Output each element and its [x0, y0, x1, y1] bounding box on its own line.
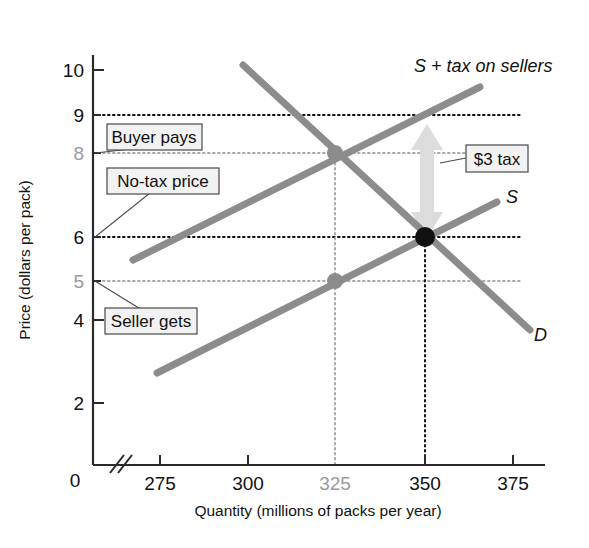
supply-curve	[157, 202, 497, 373]
no-tax-equilibrium-point	[415, 227, 435, 247]
no-tax-price-leader	[95, 193, 150, 237]
seller-gets-point	[327, 273, 343, 289]
callout-tax[interactable]: $3 tax	[466, 145, 528, 172]
tax-leader	[440, 158, 466, 163]
demand-label: D	[534, 325, 547, 345]
y-tick-label-8: 8	[73, 143, 84, 164]
x-axis-title: Quantity (millions of packs per year)	[194, 502, 441, 519]
y-tick-label-10: 10	[63, 60, 84, 81]
y-tick-label-2: 2	[73, 393, 84, 414]
seller-gets-leader	[95, 281, 142, 310]
y-axis-title: Price (dollars per pack)	[16, 180, 33, 339]
supply-plus-tax-label: S + tax on sellers	[414, 56, 553, 76]
x-tick-label-325: 325	[319, 473, 351, 494]
tax-label: $3 tax	[474, 150, 521, 169]
x-tick-label-350: 350	[409, 473, 441, 494]
y-tick-label-5: 5	[73, 271, 84, 292]
axes	[93, 55, 545, 473]
chart-figure: 10 9 8 6 5 4 2 0 275 300 325 350 375 Qua…	[0, 0, 589, 548]
callout-buyer-pays[interactable]: Buyer pays	[107, 124, 202, 150]
x-tick-label-375: 375	[497, 473, 529, 494]
y-tick-label-6: 6	[73, 227, 84, 248]
seller-gets-label: Seller gets	[111, 312, 191, 331]
x-tick-label-275: 275	[144, 473, 176, 494]
x-tick-label-300: 300	[232, 473, 264, 494]
y-tick-label-4: 4	[73, 310, 84, 331]
x-axis-ticks	[160, 455, 513, 465]
supply-demand-chart: 10 9 8 6 5 4 2 0 275 300 325 350 375 Qua…	[0, 0, 589, 548]
y-tick-label-9: 9	[73, 105, 84, 126]
buyer-pays-point	[327, 145, 343, 161]
callout-seller-gets[interactable]: Seller gets	[105, 308, 197, 334]
x-tick-label-0: 0	[70, 470, 81, 491]
x-axis-tick-labels: 0 275 300 325 350 375	[70, 470, 529, 494]
supply-label: S	[506, 187, 518, 207]
callout-no-tax-price[interactable]: No-tax price	[107, 168, 219, 194]
buyer-pays-label: Buyer pays	[111, 128, 196, 147]
demand-curve	[243, 65, 530, 330]
y-axis-tick-labels: 10 9 8 6 5 4 2	[63, 60, 85, 414]
no-tax-price-label: No-tax price	[117, 172, 209, 191]
